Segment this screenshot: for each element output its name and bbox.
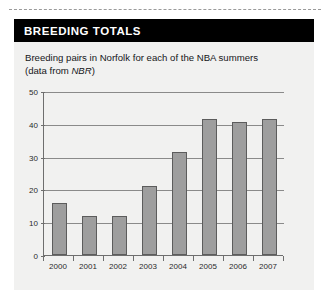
x-tick-label: 2001: [73, 262, 103, 271]
x-tick-mark: [163, 256, 164, 261]
x-tick-label: 2007: [253, 262, 283, 271]
x-tick-mark: [283, 256, 284, 261]
x-tick-label: 2002: [103, 262, 133, 271]
y-tick-label: 40: [16, 120, 38, 129]
y-tick-label: 20: [16, 186, 38, 195]
y-tick-label: 10: [16, 219, 38, 228]
bar-cell: [134, 91, 164, 255]
bar-cell: [254, 91, 284, 255]
bars-group: [44, 91, 284, 255]
subtitle-line-2-prefix: (data from: [25, 65, 71, 76]
x-tick-label: 2006: [223, 262, 253, 271]
x-tick-label: 2004: [163, 262, 193, 271]
panel-subtitle: Breeding pairs in Norfolk for each of th…: [25, 51, 302, 77]
bar-cell: [44, 91, 74, 255]
bar-2002: [112, 216, 127, 255]
y-tick-label: 30: [16, 153, 38, 162]
bar-2006: [232, 122, 247, 255]
x-axis-ticks: [43, 256, 283, 261]
bar-chart: 01020304050 2000200120022003200420052006…: [14, 92, 314, 290]
dashed-cut-rule: [9, 9, 321, 10]
plot-area: [43, 92, 283, 256]
bar-2003: [142, 186, 157, 255]
bar-2001: [82, 216, 97, 255]
bar-cell: [224, 91, 254, 255]
bar-cell: [164, 91, 194, 255]
y-tick-label: 50: [16, 88, 38, 97]
x-tick-label: 2000: [43, 262, 73, 271]
x-tick-label: 2003: [133, 262, 163, 271]
x-tick-mark: [43, 256, 44, 261]
bar-cell: [104, 91, 134, 255]
x-tick-mark: [73, 256, 74, 261]
x-tick-mark: [133, 256, 134, 261]
bar-2004: [172, 152, 187, 255]
subtitle-line-2-suffix: ): [92, 65, 95, 76]
bar-cell: [74, 91, 104, 255]
subtitle-source-abbr: NBR: [71, 65, 91, 76]
x-tick-mark: [193, 256, 194, 261]
page-title: BREEDING TOTALS: [24, 25, 141, 37]
x-tick-label: 2005: [193, 262, 223, 271]
bar-2005: [202, 119, 217, 255]
bar-2007: [262, 119, 277, 255]
subtitle-line-1: Breeding pairs in Norfolk for each of th…: [25, 52, 258, 63]
x-tick-mark: [223, 256, 224, 261]
bar-cell: [194, 91, 224, 255]
bar-2000: [52, 203, 67, 255]
panel-header: BREEDING TOTALS: [14, 19, 314, 42]
x-tick-mark: [253, 256, 254, 261]
x-tick-mark: [103, 256, 104, 261]
x-axis-labels: 20002001200220032004200520062007: [43, 262, 283, 271]
y-tick-label: 0: [16, 252, 38, 261]
breeding-totals-panel: BREEDING TOTALS Breeding pairs in Norfol…: [14, 19, 314, 290]
